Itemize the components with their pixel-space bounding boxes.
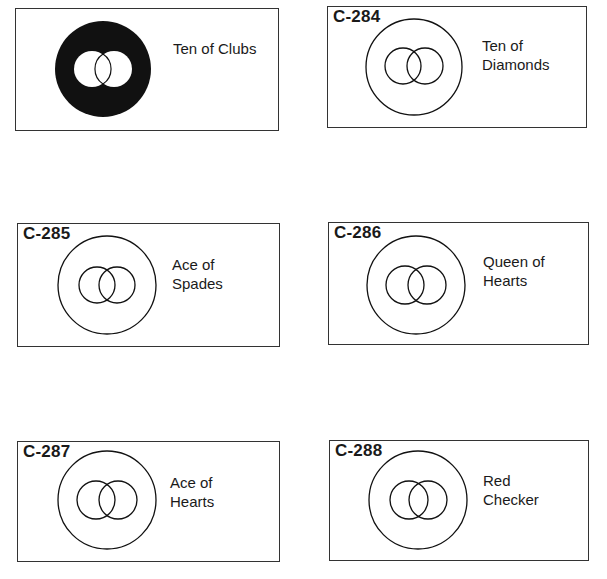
card-c-285: C-285 Ace of Spades [17, 223, 280, 347]
card-label: Queen of Hearts [483, 252, 545, 290]
card-ten-of-clubs: Ten of Clubs [15, 8, 279, 131]
card-code: C-286 [334, 223, 381, 243]
card-code: C-284 [333, 7, 380, 27]
card-code: C-288 [335, 441, 382, 461]
card-label: Ace of Spades [172, 255, 223, 293]
card-c-287: C-287 Ace of Hearts [17, 441, 280, 562]
card-code: C-287 [23, 442, 70, 462]
card-label: Ace of Hearts [170, 473, 214, 511]
card-c-286: C-286 Queen of Hearts [328, 222, 589, 345]
card-c-288: C-288 Red Checker [329, 440, 589, 561]
filled-ring-overlap-icon [16, 9, 280, 132]
card-code: C-285 [23, 224, 70, 244]
card-label: Ten of Diamonds [482, 36, 550, 74]
card-label: Red Checker [483, 471, 539, 509]
card-c-284: C-284 Ten of Diamonds [327, 6, 587, 128]
card-label: Ten of Clubs [173, 39, 256, 58]
